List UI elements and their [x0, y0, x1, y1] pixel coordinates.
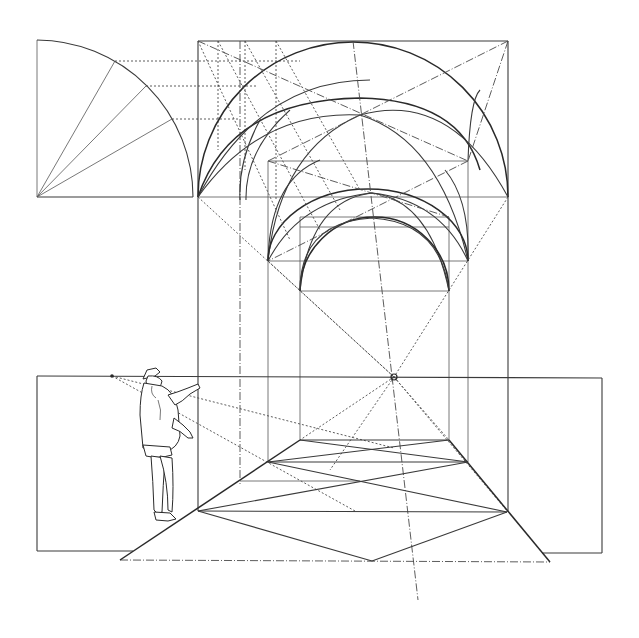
perspective-diagram: Perspective construction of a groin-vaul…	[0, 0, 639, 638]
horizon-and-planes	[37, 374, 602, 553]
front-frame	[198, 41, 508, 512]
diagram-canvas	[0, 0, 639, 638]
observer-figure	[140, 368, 200, 521]
vault-arches	[198, 42, 508, 291]
quarter-circle-elevation	[37, 40, 300, 197]
eye-point-marker	[110, 374, 114, 378]
floor-construction	[120, 440, 550, 562]
